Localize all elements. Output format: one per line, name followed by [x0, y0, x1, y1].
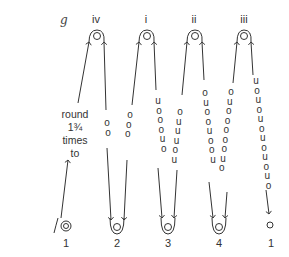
entry-tail — [54, 218, 58, 233]
panel-label: g — [60, 13, 68, 27]
top-label-ii: ii — [192, 13, 197, 25]
line-2-up-lower — [124, 160, 127, 220]
letter-i-down-5: o — [161, 143, 167, 154]
bottom-node-1-start — [61, 221, 71, 231]
line-1-to-iv-upper — [78, 42, 89, 103]
letter-sequences: ooooouooouoouuuououoouoououooooououououo… — [104, 75, 272, 191]
top-loop-iii — [237, 30, 251, 42]
annotation-line-2: 1¾ — [68, 121, 83, 133]
top-loop-i — [139, 30, 154, 42]
bottom-label-1-end: 1 — [268, 237, 274, 249]
line-3-up-upper — [182, 42, 187, 95]
top-loop-ii — [187, 30, 202, 42]
line-4-up-lower — [225, 192, 227, 218]
letter-iii-up-8: o — [219, 162, 225, 173]
line-iv-down-lower — [107, 148, 111, 220]
line-iii-down-upper — [251, 42, 253, 75]
line-4-up-upper — [233, 42, 237, 83]
line-1-to-iv-lower — [61, 160, 68, 218]
letter-i-up-2: o — [125, 128, 131, 139]
bottom-label-4: 4 — [216, 237, 222, 249]
annotation-line-4: to — [71, 147, 80, 159]
line-ii-down-upper — [202, 42, 204, 80]
top-label-i: i — [145, 13, 147, 25]
bottom-label-2: 2 — [114, 237, 120, 249]
letter-iii-down-11: o — [266, 180, 272, 191]
bottom-node-1-end — [267, 222, 273, 228]
bottom-label-3: 3 — [165, 237, 171, 249]
letter-ii-up-5: u — [172, 154, 178, 165]
letter-ii-down-7: u — [210, 154, 216, 165]
diagram-svg: g iv i ii iii — [0, 0, 289, 257]
top-loop-iv — [89, 30, 104, 42]
line-iv-down-upper — [104, 42, 106, 110]
line-ii-down-lower — [209, 182, 213, 218]
bottom-loop-4 — [212, 218, 226, 234]
bottom-loop-3 — [161, 218, 175, 234]
stitch-path-diagram: g iv i ii iii — [0, 0, 289, 257]
letter-iv-down-1: o — [105, 127, 111, 138]
bottom-label-1: 1 — [63, 237, 69, 249]
top-label-iii: iii — [240, 13, 247, 25]
line-2-up-upper — [132, 42, 139, 105]
annotation-line-3: times — [62, 134, 87, 146]
bottom-loop-2 — [110, 218, 124, 234]
annotation-line-1: round — [62, 108, 89, 120]
top-label-iv: iv — [92, 13, 100, 25]
line-iii-down-lower — [266, 190, 269, 214]
line-i-down-lower — [158, 168, 162, 218]
line-i-down-upper — [154, 42, 156, 90]
line-3-up-lower — [174, 170, 177, 218]
